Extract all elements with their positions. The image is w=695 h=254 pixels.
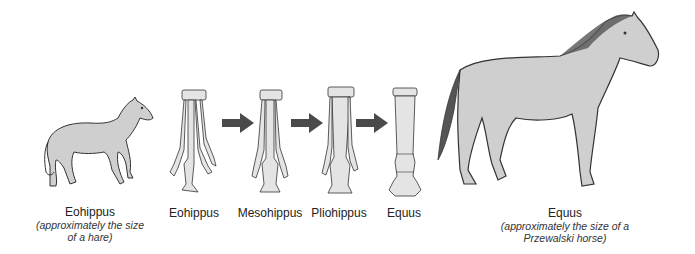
equus-size-caption-line2: Przewalski horse): [480, 232, 650, 244]
eohippus-animal-label: Eohippus (approximately the size of a ha…: [0, 205, 180, 243]
eohippus-size-caption-line1: (approximately the size: [0, 219, 180, 231]
foot-label-mesohippus: Mesohippus: [230, 206, 310, 220]
mesohippus-foot-bones: [248, 88, 293, 198]
arrow-3-icon: [356, 113, 388, 133]
eohippus-foot-bones: [168, 88, 218, 198]
equus-foot-bones: [385, 86, 425, 201]
eohippus-animal-illustration: [0, 80, 170, 190]
foot-label-equus: Equus: [374, 206, 434, 220]
foot-label-pliohippus: Pliohippus: [302, 206, 376, 220]
equus-name: Equus: [548, 206, 582, 220]
eohippus-name: Eohippus: [65, 205, 115, 219]
foot-label-eohippus: Eohippus: [162, 206, 226, 220]
equus-animal-label: Equus (approximately the size of a Przew…: [480, 206, 650, 244]
pliohippus-foot-bones: [318, 85, 363, 200]
equus-size-caption-line1: (approximately the size of a: [480, 220, 650, 232]
eohippus-size-caption-line2: of a hare): [0, 231, 180, 243]
equus-animal-illustration: [420, 0, 695, 200]
